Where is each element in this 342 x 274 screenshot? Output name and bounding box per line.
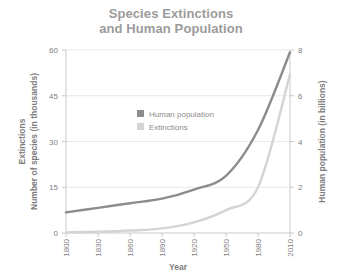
x-label-1920: 1920 xyxy=(190,238,199,256)
legend-swatch-extinctions xyxy=(137,123,144,130)
legend-label-extinctions: Extinctions xyxy=(149,123,188,132)
y-right-label-6: 6 xyxy=(298,92,303,101)
y-left-tick-labels: 60 45 30 15 0 xyxy=(49,46,58,238)
x-tick-labels: 1800 1830 1860 1890 1920 1950 1980 2010 xyxy=(62,238,295,256)
x-label-2010: 2010 xyxy=(286,238,295,256)
x-axis-title: Year xyxy=(169,262,188,272)
y-right-label-2: 2 xyxy=(298,183,303,192)
chart-container: Species Extinctions and Human Population… xyxy=(0,0,342,274)
y-right-axis xyxy=(290,50,294,233)
y-left-label-0: 0 xyxy=(54,229,59,238)
y-right-axis-title: Human population (in billions) xyxy=(317,80,327,202)
chart-plot: 60 45 30 15 0 Extinctions Number of spec… xyxy=(0,0,342,274)
chart-legend: Human population Extinctions xyxy=(137,110,214,132)
x-label-1800: 1800 xyxy=(62,238,71,256)
y-right-label-8: 8 xyxy=(298,46,303,55)
x-label-1890: 1890 xyxy=(158,238,167,256)
x-label-1950: 1950 xyxy=(222,238,231,256)
y-left-axis-title-line-2: Number of species (in thousands) xyxy=(29,73,39,210)
x-label-1860: 1860 xyxy=(126,238,135,256)
y-right-label-0: 0 xyxy=(298,229,303,238)
x-label-1980: 1980 xyxy=(254,238,263,256)
y-left-label-15: 15 xyxy=(49,183,58,192)
y-left-label-60: 60 xyxy=(49,46,58,55)
y-left-axis xyxy=(62,50,66,233)
y-left-axis-title-line-1: Extinctions xyxy=(17,118,27,164)
gridlines xyxy=(66,50,290,187)
x-label-1830: 1830 xyxy=(94,238,103,256)
legend-swatch-human-population xyxy=(137,110,144,117)
y-right-tick-labels: 8 6 4 2 0 xyxy=(298,46,303,238)
y-left-label-30: 30 xyxy=(49,138,58,147)
y-right-label-4: 4 xyxy=(298,138,303,147)
legend-label-human-population: Human population xyxy=(149,110,214,119)
x-axis xyxy=(66,233,290,237)
y-left-label-45: 45 xyxy=(49,92,58,101)
